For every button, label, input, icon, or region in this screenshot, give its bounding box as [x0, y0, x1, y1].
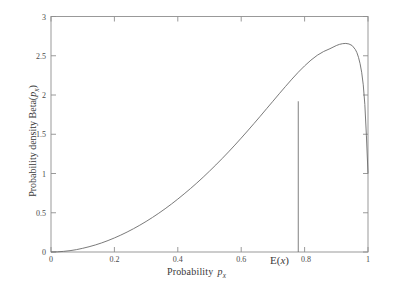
y-tick-label-3: 3: [24, 12, 46, 21]
x-tick-label-0-2: 0.2: [109, 255, 119, 264]
beta-distribution-figure: 0 0.2 0.4 0.6 0.8 1 0 0.5 1 1.5 2 2.5 3 …: [0, 0, 393, 289]
x-tick-label-0-6: 0.6: [236, 255, 246, 264]
x-axis-title-subscript: x: [223, 272, 226, 280]
x-tick-label-1: 1: [366, 255, 370, 264]
y-axis-title-subscript: x: [33, 89, 41, 92]
y-axis-title: Probability density Beta(px): [27, 21, 41, 261]
x-tick-label-0-8: 0.8: [301, 255, 311, 264]
plot-frame: [51, 17, 368, 253]
x-tick-label-0: 0: [49, 255, 53, 264]
density-curve: [51, 43, 368, 252]
plot-canvas: [0, 0, 393, 289]
expectation-label-close: ): [285, 254, 289, 266]
x-tick-marks: [51, 17, 368, 253]
y-axis-title-text: Probability density Beta(: [27, 97, 38, 197]
y-tick-marks: [51, 17, 368, 253]
x-tick-label-0-4: 0.4: [173, 255, 183, 264]
y-axis-title-variable: p: [27, 92, 38, 97]
x-axis-title: Probabilitypx: [0, 266, 393, 280]
y-axis-title-close: ): [27, 85, 38, 88]
expectation-label: E(x): [270, 254, 289, 266]
expectation-label-prefix: E(: [270, 254, 280, 266]
x-axis-title-text: Probability: [167, 266, 214, 277]
